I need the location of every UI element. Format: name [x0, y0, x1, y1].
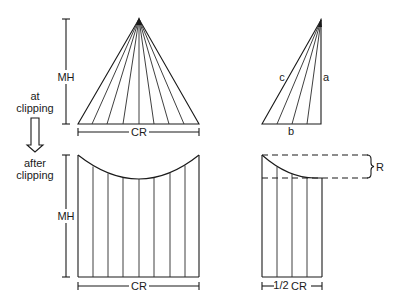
mh-label-bottom: MH: [57, 210, 74, 222]
half-cone-at-clipping: c a b: [262, 18, 330, 137]
side-c-label: c: [279, 71, 285, 83]
down-arrow-icon: [27, 118, 43, 152]
at-clipping-label-1: at: [30, 90, 39, 102]
clipped-curve-top: [78, 155, 199, 179]
cone-outline: [78, 19, 199, 124]
half-after-clipping: R 1/2 CR: [262, 155, 384, 292]
cone-branch-lines: [92, 19, 184, 124]
at-clipping-label-2: clipping: [16, 102, 53, 114]
side-a-label: a: [323, 71, 330, 83]
after-clipping-label-1: after: [24, 157, 46, 169]
cr-label-top: CR: [131, 126, 147, 138]
after-clipping-label-2: clipping: [16, 169, 53, 181]
vertical-branch-lines: [93, 166, 185, 278]
right-triangle-outline: [262, 20, 321, 124]
r-brace-icon: [367, 155, 374, 178]
full-cone-at-clipping: MH CR: [57, 17, 199, 138]
tree-after-clipping: MH CR: [57, 155, 199, 292]
half-vertical-lines: [277, 167, 307, 277]
side-b-label: b: [288, 125, 294, 137]
cr-label-bottom: CR: [131, 280, 147, 292]
clipping-diagram: MH CR at clipping after clipping: [0, 0, 394, 305]
mh-label-top: MH: [57, 71, 74, 83]
r-label: R: [376, 161, 384, 173]
half-cr-label: CR: [291, 280, 307, 292]
half-fraction-label: 1/2: [273, 279, 288, 291]
apex-marker: [136, 17, 142, 25]
